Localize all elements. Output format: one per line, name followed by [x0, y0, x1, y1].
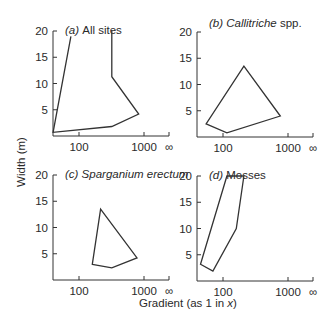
panel-title: (a) All sites	[65, 24, 122, 36]
y-tick-label: 5	[186, 249, 192, 261]
y-tick-label: 15	[35, 51, 48, 63]
y-tick-label: 15	[179, 196, 192, 208]
x-tick-label: 1000	[131, 141, 157, 153]
x-tick-label: ∞	[165, 285, 173, 297]
panel-d: 51015201001000∞(d) Mosses	[179, 169, 317, 298]
y-tick-label: 5	[42, 104, 48, 116]
y-tick-label: 20	[35, 25, 48, 37]
figure-canvas: 51015201001000∞(a) All sites510152010010…	[0, 0, 330, 322]
y-axis-label: Width (m)	[15, 137, 27, 187]
x-tick-label: ∞	[165, 141, 173, 153]
envelope-shape	[92, 209, 137, 268]
y-tick-label: 10	[179, 79, 192, 91]
x-tick-label: 1000	[275, 142, 301, 154]
x-tick-label: 100	[69, 285, 88, 297]
panel-c: 51015201001000∞(c) Sparganium erectum	[35, 168, 189, 297]
y-tick-label: 20	[35, 169, 48, 181]
x-tick-label: 100	[213, 142, 232, 154]
x-tick-label: 1000	[275, 286, 301, 298]
envelope-shape	[201, 176, 244, 271]
x-tick-label: 1000	[131, 285, 157, 297]
x-tick-label: ∞	[309, 142, 317, 154]
y-tick-label: 10	[179, 223, 192, 235]
panel-title: (b) Callitriche spp.	[209, 17, 302, 29]
y-tick-label: 15	[179, 52, 192, 64]
y-tick-label: 20	[179, 170, 192, 182]
y-tick-label: 5	[186, 105, 192, 117]
y-tick-label: 10	[35, 78, 48, 90]
y-tick-label: 10	[35, 222, 48, 234]
panel-title: (c) Sparganium erectum	[65, 168, 189, 180]
panel-b: 51015201001000∞(b) Callitriche spp.	[179, 17, 317, 154]
envelope-shape	[206, 66, 280, 133]
x-tick-label: 100	[69, 141, 88, 153]
panels: 51015201001000∞(a) All sites510152010010…	[35, 17, 317, 298]
y-tick-label: 15	[35, 195, 48, 207]
x-axis-label: Gradient (as 1 in x)	[139, 297, 237, 309]
panel-a: 51015201001000∞(a) All sites	[35, 24, 173, 153]
y-tick-label: 20	[179, 26, 192, 38]
envelope-shape	[53, 31, 139, 132]
x-tick-label: ∞	[309, 286, 317, 298]
y-tick-label: 5	[42, 248, 48, 260]
panel-title: (d) Mosses	[209, 169, 266, 181]
